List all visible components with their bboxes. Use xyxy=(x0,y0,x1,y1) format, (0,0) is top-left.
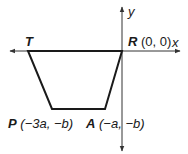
trapezoid-TRAP xyxy=(28,51,122,109)
vertex-A-label: A (−a, −b) xyxy=(86,117,145,130)
vertex-R-label: R (0, 0) xyxy=(128,35,171,48)
vertex-R-name: R xyxy=(128,34,137,49)
vertex-P-name: P xyxy=(8,116,17,131)
vertex-A-name: A xyxy=(86,116,95,131)
vertex-T-label: T xyxy=(25,35,33,48)
x-axis-label: x xyxy=(172,36,179,49)
y-axis-label: y xyxy=(128,5,135,18)
vertex-P-label: P (−3a, −b) xyxy=(8,117,73,130)
vertex-R-coords: (0, 0) xyxy=(141,34,171,49)
vertex-A-coords: (−a, −b) xyxy=(99,116,145,131)
vertex-P-coords: (−3a, −b) xyxy=(20,116,73,131)
